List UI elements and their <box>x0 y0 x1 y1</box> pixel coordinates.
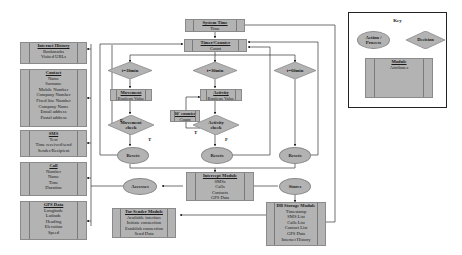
legend-action: Action / Process <box>357 31 390 49</box>
action-accesses: Accesses <box>123 178 157 195</box>
legend-title: Key <box>349 18 446 23</box>
edge-timer-t60 <box>215 55 295 62</box>
edge-label-false-activity: F <box>225 137 228 142</box>
edge-reset1-intercept <box>130 164 215 172</box>
edge-mcheck-false <box>112 45 118 125</box>
edge-label-true-movement: T <box>148 137 151 142</box>
module-activity: Activity Boolean Value <box>200 89 242 101</box>
module-timer-counter: Timer/Counter Count <box>184 39 247 52</box>
module-db-storage: DB Storage Module Timestamp SMS List Cal… <box>266 202 326 246</box>
action-resets-3: Resets <box>279 147 311 164</box>
decision-t60: t=60min <box>274 62 316 79</box>
edge-label-true-activity: T <box>194 130 197 135</box>
module-movement: Movement Boolean Value <box>110 89 152 101</box>
edge-counter-activity <box>186 97 200 110</box>
edge-reset3-intercept <box>215 164 295 168</box>
module-contact: Contact Name Surname Mobile Number Compa… <box>20 69 87 127</box>
module-intercept: Intercept Module SMSs Calls Contacts GPS… <box>186 172 254 201</box>
action-stores: Stores <box>279 178 311 195</box>
module-system-time: System Time Time <box>185 19 245 32</box>
module-30-counter: 30' counter Count <box>170 110 200 122</box>
edge-label-false-movement: F <box>120 118 123 123</box>
module-gps-data: GPS Data Longitude Latitude Heading Elev… <box>20 201 87 240</box>
module-tor-sender: Tor Sender Module Available interface In… <box>112 208 176 238</box>
action-resets-1: Resets <box>117 147 149 164</box>
legend-decision: Decision <box>406 31 445 49</box>
legend-key: Key Action / Process Decision Module Att… <box>348 12 447 108</box>
action-resets-2: Resets <box>201 147 233 164</box>
module-sms: SMS Text Time received/send Sender/Recip… <box>20 130 87 157</box>
module-internet-history: Internet History Bookmarks Visited URLs <box>20 42 87 64</box>
decision-movement-check: Movement check <box>108 115 154 135</box>
module-call: Call Number Name Time Duration <box>20 162 87 196</box>
decision-t30: t=30min <box>193 62 237 79</box>
decision-t10: t=10min <box>108 62 152 79</box>
legend-module: Module Attributes <box>365 58 433 98</box>
edge-reset3-timer <box>248 42 318 155</box>
